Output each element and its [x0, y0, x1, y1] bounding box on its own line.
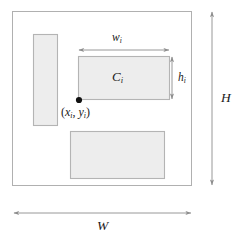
bin-width-label-W: W [97, 219, 108, 233]
width-symbol: w [112, 31, 120, 43]
coord-x-subscript: i [70, 111, 72, 120]
container-label-ci: Ci [112, 70, 123, 83]
container-symbol: C [112, 69, 121, 84]
bin-height-label-H: H [221, 91, 231, 105]
origin-coordinate-label: (xi, yi) [61, 106, 90, 118]
placed-rect-left [34, 35, 58, 126]
origin-dot [76, 97, 82, 103]
height-subscript: i [184, 76, 186, 85]
close-paren: ) [86, 105, 90, 119]
width-label-wi: wi [112, 32, 122, 44]
coord-y-subscript: i [84, 111, 86, 120]
placed-rect-main [79, 57, 170, 100]
height-symbol: h [178, 71, 184, 83]
placed-rect-bottom [71, 132, 165, 179]
figure-canvas: wi hi Ci (xi, yi) H W [0, 0, 241, 237]
width-subscript: i [120, 36, 122, 45]
container-subscript: i [121, 75, 123, 85]
height-label-hi: hi [178, 72, 186, 84]
